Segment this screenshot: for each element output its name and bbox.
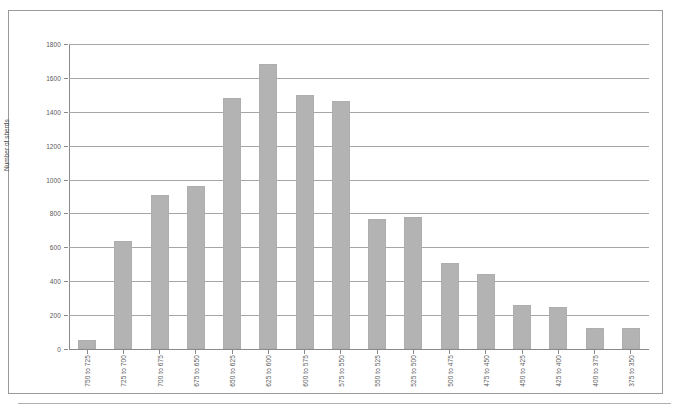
y-axis-tick-label: 400 xyxy=(50,278,61,285)
x-axis-tick-mark xyxy=(268,350,269,354)
y-axis-tick-mark xyxy=(64,78,68,79)
bar-slot xyxy=(69,44,105,349)
x-axis-tick-label: 400 to 375 xyxy=(591,355,598,387)
x-label-slot: 450 to 425 xyxy=(504,355,540,403)
y-axis-tick-mark xyxy=(64,44,68,45)
x-axis-tick-mark xyxy=(195,350,196,354)
x-label-slot: 575 to 550 xyxy=(323,355,359,403)
x-axis-tick-label: 650 to 625 xyxy=(229,355,236,387)
bar-slot xyxy=(105,44,141,349)
y-axis-tick-label: 800 xyxy=(50,210,61,217)
x-axis-tick-label: 500 to 475 xyxy=(446,355,453,387)
y-axis-tick-mark xyxy=(64,281,68,282)
x-axis-tick-labels: 750 to 725725 to 700700 to 675675 to 650… xyxy=(69,355,649,403)
bar xyxy=(78,340,96,349)
bar-slot xyxy=(577,44,613,349)
y-axis-tick-mark xyxy=(64,146,68,147)
x-axis-tick-label: 700 to 675 xyxy=(156,355,163,387)
figure-frame: Number of sherds 02004006008001000120014… xyxy=(8,10,663,394)
x-axis-tick-mark xyxy=(232,350,233,354)
x-axis-tick-label: 750 to 725 xyxy=(84,355,91,387)
y-axis-tick-mark xyxy=(64,349,68,350)
x-axis-tick-label: 475 to 450 xyxy=(482,355,489,387)
bar-slot xyxy=(287,44,323,349)
bar-series xyxy=(69,44,649,349)
x-label-slot: 375 to 350 xyxy=(613,355,649,403)
x-axis-tick-mark xyxy=(304,350,305,354)
x-label-slot: 700 to 675 xyxy=(142,355,178,403)
bar xyxy=(114,241,132,349)
bar-slot xyxy=(613,44,649,349)
x-label-slot: 625 to 600 xyxy=(250,355,286,403)
x-axis-tick-mark xyxy=(123,350,124,354)
bar-slot xyxy=(432,44,468,349)
bar-slot xyxy=(468,44,504,349)
bar-slot xyxy=(214,44,250,349)
y-axis-tick-label: 1800 xyxy=(46,41,61,48)
bar xyxy=(296,95,314,349)
x-axis-tick-mark xyxy=(377,350,378,354)
figure-bottom-rule xyxy=(18,403,671,404)
x-label-slot: 675 to 650 xyxy=(178,355,214,403)
x-axis-tick-mark xyxy=(413,350,414,354)
x-label-slot: 475 to 450 xyxy=(468,355,504,403)
x-label-slot: 425 to 400 xyxy=(540,355,576,403)
y-axis-tick-mark xyxy=(64,247,68,248)
x-axis-tick-label: 725 to 700 xyxy=(120,355,127,387)
bar xyxy=(332,101,350,349)
bar xyxy=(368,219,386,349)
y-axis-tick-label: 200 xyxy=(50,312,61,319)
bar xyxy=(513,305,531,349)
y-axis-tick-mark xyxy=(64,180,68,181)
x-label-slot: 550 to 525 xyxy=(359,355,395,403)
x-axis-tick-label: 625 to 600 xyxy=(265,355,272,387)
bar-slot xyxy=(323,44,359,349)
x-axis-tick-mark xyxy=(159,350,160,354)
bar xyxy=(187,186,205,350)
x-label-slot: 600 to 575 xyxy=(287,355,323,403)
x-axis-tick-mark xyxy=(522,350,523,354)
bar xyxy=(259,64,277,350)
bar-slot xyxy=(504,44,540,349)
x-label-slot: 525 to 500 xyxy=(395,355,431,403)
y-axis-tick-mark xyxy=(64,315,68,316)
bar xyxy=(477,274,495,349)
bar xyxy=(223,98,241,349)
x-axis-tick-mark xyxy=(449,350,450,354)
x-axis-tick-mark xyxy=(630,350,631,354)
y-axis-tick-mark xyxy=(64,112,68,113)
x-axis-tick-mark xyxy=(340,350,341,354)
y-axis-tick-label: 1600 xyxy=(46,74,61,81)
x-label-slot: 400 to 375 xyxy=(577,355,613,403)
y-axis-tick-label: 1000 xyxy=(46,176,61,183)
x-axis-tick-mark xyxy=(485,350,486,354)
bar xyxy=(151,195,169,349)
y-axis-tick-label: 600 xyxy=(50,244,61,251)
x-axis-tick-label: 375 to 350 xyxy=(627,355,634,387)
x-axis-tick-label: 600 to 575 xyxy=(301,355,308,387)
chart-figure: Number of sherds 02004006008001000120014… xyxy=(0,0,673,405)
x-axis-tick-mark xyxy=(594,350,595,354)
x-axis-tick-label: 450 to 425 xyxy=(519,355,526,387)
bar xyxy=(441,263,459,349)
bar xyxy=(404,217,422,349)
y-axis-tick-label: 1200 xyxy=(46,142,61,149)
bar-slot xyxy=(395,44,431,349)
x-axis-tick-label: 525 to 500 xyxy=(410,355,417,387)
x-axis-tick-mark xyxy=(558,350,559,354)
x-label-slot: 500 to 475 xyxy=(432,355,468,403)
x-axis-tick-mark xyxy=(87,350,88,354)
x-axis-tick-label: 425 to 400 xyxy=(555,355,562,387)
bar-slot xyxy=(250,44,286,349)
y-axis-tick-labels: 020040060080010001200140016001800 xyxy=(9,44,61,349)
y-axis-tick-label: 1400 xyxy=(46,108,61,115)
bar-slot xyxy=(359,44,395,349)
y-axis-tick-mark xyxy=(64,213,68,214)
bar-slot xyxy=(142,44,178,349)
x-axis-tick-label: 550 to 525 xyxy=(374,355,381,387)
x-label-slot: 750 to 725 xyxy=(69,355,105,403)
bar xyxy=(586,328,604,349)
x-label-slot: 650 to 625 xyxy=(214,355,250,403)
x-axis-tick-label: 575 to 550 xyxy=(337,355,344,387)
x-axis-tick-label: 675 to 650 xyxy=(192,355,199,387)
